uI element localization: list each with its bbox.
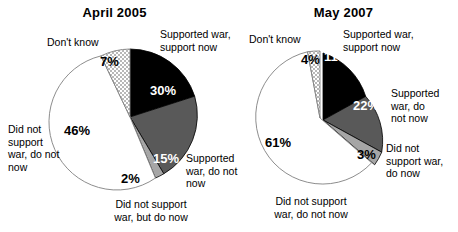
pie-label-april-notsupport-not-now: Did not support war, do not now bbox=[8, 123, 64, 173]
pie-value-april-notsupport-do-now: 2% bbox=[121, 172, 140, 185]
pie-value-may-supported-not-now: 22% bbox=[353, 99, 379, 112]
chart-panel-april-2005: April 2005 30% 15% 2% 46% bbox=[0, 0, 229, 232]
pie-label-may-notsupport-not-now: Did not support war, do not now bbox=[249, 195, 373, 220]
pie-value-april-dont-know: 7% bbox=[100, 55, 119, 68]
pie-label-may-dont-know: Don't know bbox=[249, 33, 321, 46]
pie-chart-figure: April 2005 30% 15% 2% 46% bbox=[0, 0, 458, 232]
pie-label-april-notsupport-do-now: Did not support war, but do now bbox=[98, 198, 204, 223]
pie-value-april-supported-support-now: 30% bbox=[150, 84, 176, 97]
pie-label-may-supported-support-now: Supported war, support now bbox=[343, 28, 443, 53]
pie-value-may-notsupport-do-now: 3% bbox=[357, 148, 376, 161]
pie-value-may-dont-know: 4% bbox=[301, 53, 320, 66]
pie-value-april-supported-not-now: 15% bbox=[153, 152, 179, 165]
pie-label-may-supported-not-now: Supported war, do not now bbox=[391, 87, 453, 125]
chart-panel-may-2007: May 2007 11% 22% 3% bbox=[229, 0, 458, 232]
pie-value-april-notsupport-not-now: 46% bbox=[64, 124, 90, 137]
pie-label-may-notsupport-do-now: Did not support war, do now bbox=[386, 142, 456, 180]
pie-value-may-notsupport-not-now: 61% bbox=[265, 136, 291, 149]
pie-label-april-dont-know: Don't know bbox=[47, 36, 119, 49]
